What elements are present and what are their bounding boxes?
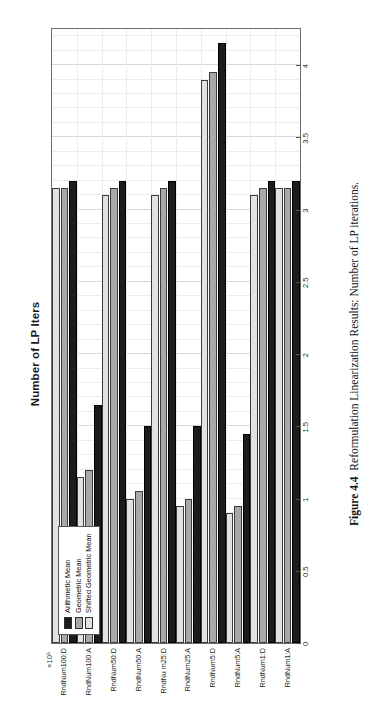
legend-item: Arithmetic Mean: [63, 533, 74, 629]
chart-title: Number of LP Iters: [29, 20, 41, 688]
bar-0: [144, 426, 152, 643]
rotated-figure-wrapper: Number of LP Iters ×10⁶ RndNum1:ARndNum1…: [29, 20, 347, 688]
bar-0: [243, 434, 251, 643]
value-tick-label: 1.5: [301, 422, 310, 433]
category-label: RndNum25:A: [183, 648, 192, 691]
bar-1: [160, 188, 168, 643]
value-tick-label: 0.5: [301, 566, 310, 577]
bar-1: [135, 491, 143, 643]
bar-1: [110, 188, 118, 643]
bar-0: [168, 181, 176, 643]
category-label: RndNu m25:D: [158, 648, 167, 694]
figure-caption: Figure 4.4 Reformulation Linearization R…: [348, 74, 360, 634]
legend: Arithmetic MeanGeometric MeanShifted Geo…: [58, 526, 100, 635]
bar-2: [151, 195, 159, 643]
legend-item: Geometric Mean: [74, 533, 85, 629]
category-label: RndNum100:A: [84, 648, 93, 695]
rotated-caption-wrapper: Figure 4.4 Reformulation Linearization R…: [348, 74, 370, 634]
category-label: RndNum1:D: [257, 648, 266, 688]
category-label: RndNum5:A: [233, 648, 242, 687]
value-tick-label: 4: [301, 64, 310, 68]
bar-group: [201, 29, 226, 643]
bar-1: [284, 188, 292, 643]
plot-area: Arithmetic MeanGeometric MeanShifted Geo…: [51, 28, 301, 644]
category-label: RndNum1:A: [282, 648, 291, 687]
value-tick-label: 0: [301, 642, 310, 646]
bar-2: [275, 188, 283, 643]
legend-swatch: [85, 617, 93, 629]
bar-0: [292, 181, 300, 643]
bar-2: [201, 80, 209, 643]
value-tick-label: 2.5: [301, 278, 310, 289]
bar-group: [176, 29, 201, 643]
bar-2: [176, 506, 184, 643]
value-tick-label: 2: [301, 353, 310, 357]
category-label: RndNum5:D: [208, 648, 217, 688]
legend-swatch: [64, 617, 72, 629]
bar-2: [250, 195, 258, 643]
legend-label: Shifted Geometric Mean: [84, 533, 95, 613]
bar-group: [151, 29, 176, 643]
bar-0: [268, 181, 276, 643]
bar-1: [234, 506, 242, 643]
bar-group: [275, 29, 300, 643]
bar-0: [218, 43, 226, 643]
bar-1: [185, 499, 193, 643]
bar-2: [102, 195, 110, 643]
figure-caption-label: Figure 4.4: [348, 476, 360, 526]
bar-group: [226, 29, 251, 643]
bar-group: [250, 29, 275, 643]
value-axis-ticks: 00.511.522.533.54: [301, 28, 319, 644]
category-label: RndNum50:D: [109, 648, 118, 692]
category-axis: RndNum1:ARndNum1:DRndNum5:ARndNum5:DRndN…: [51, 644, 301, 688]
bar-group: [102, 29, 127, 643]
bar-1: [209, 72, 217, 643]
value-tick-label: 3.5: [301, 133, 310, 144]
figure-caption-text: Reformulation Linearization Results: Num…: [348, 182, 360, 471]
bar-chart: Number of LP Iters ×10⁶ RndNum1:ARndNum1…: [29, 20, 347, 688]
category-label: RndNum50:A: [133, 648, 142, 691]
bar-2: [126, 499, 134, 643]
legend-swatch: [75, 617, 83, 629]
legend-label: Geometric Mean: [74, 558, 85, 613]
value-tick-label: 1: [301, 497, 310, 501]
bar-0: [119, 181, 127, 643]
value-tick-label: 3: [301, 208, 310, 212]
category-label: RndNum100:D: [59, 648, 68, 696]
book-page: Number of LP Iters ×10⁶ RndNum1:ARndNum1…: [0, 0, 376, 708]
bar-group: [126, 29, 151, 643]
bar-1: [259, 188, 267, 643]
legend-item: Shifted Geometric Mean: [84, 533, 95, 629]
legend-label: Arithmetic Mean: [63, 560, 74, 613]
bar-2: [226, 513, 234, 643]
bar-0: [193, 426, 201, 643]
